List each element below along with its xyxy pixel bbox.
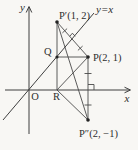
point-q-dot bbox=[55, 55, 58, 58]
origin-label: O bbox=[31, 91, 39, 102]
point-pdoubleprime-dot bbox=[86, 118, 90, 122]
point-pprime-label: P′(1, 2) bbox=[59, 10, 90, 22]
math-figure: y x y=x O Q R P(2, 1) P′(1, 2) P″(2, −1) bbox=[0, 0, 138, 150]
right-angle-marker-on-x-axis bbox=[88, 85, 94, 91]
point-q-label: Q bbox=[44, 46, 52, 57]
right-angle-marker-on-line-yx bbox=[70, 33, 76, 36]
point-p-label: P(2, 1) bbox=[93, 52, 122, 64]
point-r-label: R bbox=[53, 91, 60, 102]
point-pdoubleprime-label: P″(2, −1) bbox=[79, 128, 118, 140]
x-axis-label: x bbox=[124, 92, 130, 104]
segment-p-to-r bbox=[57, 57, 88, 90]
y-axis-label: y bbox=[19, 1, 25, 13]
point-p-dot bbox=[86, 55, 90, 59]
line-y-equals-x bbox=[3, 13, 94, 120]
line-yx-label: y=x bbox=[95, 3, 113, 15]
figure-canvas: y x y=x O Q R P(2, 1) P′(1, 2) P″(2, −1) bbox=[0, 0, 138, 150]
